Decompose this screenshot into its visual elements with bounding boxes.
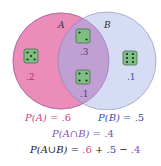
venn-diagram: A B .2 .3 .1 .1	[0, 0, 161, 110]
prob-intersection-value: .4	[104, 128, 114, 139]
prob-intersection-label: P(A∩B) =	[52, 128, 104, 139]
union-term-intersection: .4	[131, 144, 141, 155]
set-b-label: B	[103, 20, 111, 30]
die-six-icon	[123, 51, 137, 65]
plus-sign: +	[92, 144, 107, 155]
prob-b-label: P(B) =	[98, 112, 135, 123]
set-a-label: A	[57, 20, 65, 30]
minus-sign: −	[116, 144, 131, 155]
union-term-a: .6	[82, 144, 92, 155]
region-b-only-probability: .1	[127, 72, 136, 82]
prob-a-value: .6	[62, 112, 72, 123]
prob-a-label: P(A) =	[25, 112, 62, 123]
prob-union-equation: P(A∪B) = .6 + .5 − .4	[30, 144, 140, 155]
prob-b-value: .5	[135, 112, 145, 123]
die-two-icon	[76, 29, 90, 43]
region-a-only-probability: .2	[26, 72, 35, 82]
union-term-b: .5	[107, 144, 117, 155]
die-four-icon	[76, 70, 90, 84]
prob-a-equation: P(A) = .6	[25, 112, 71, 123]
prob-intersection-equation: P(A∩B) = .4	[52, 128, 114, 139]
region-intersection-die2-probability: .3	[80, 47, 89, 57]
prob-b-equation: P(B) = .5	[98, 112, 144, 123]
die-five-icon	[24, 49, 38, 63]
region-intersection-die4-probability: .1	[80, 89, 89, 99]
prob-union-label: P(A∪B) =	[30, 144, 82, 155]
